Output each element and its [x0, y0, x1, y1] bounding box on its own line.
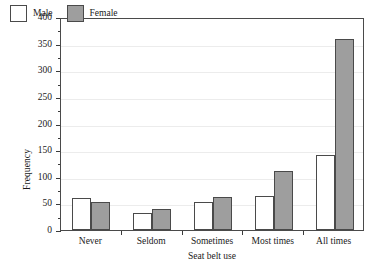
x-axis-title: Seat belt use	[60, 251, 364, 262]
legend-item-male: Male	[10, 5, 53, 22]
bar-male-never	[72, 198, 91, 230]
y-axis-tick-label: 100	[38, 173, 52, 183]
bars-layer	[61, 19, 363, 230]
x-axis-tick-label: Seldom	[137, 236, 166, 247]
plot-area	[60, 18, 364, 231]
x-axis-tick-mark	[182, 231, 183, 235]
legend-item-female: Female	[67, 5, 118, 22]
bar-female-seldom	[152, 209, 171, 230]
x-axis-tick-label: Sometimes	[191, 236, 233, 247]
x-axis-tick-label: Never	[79, 236, 102, 247]
bar-female-never	[91, 202, 110, 230]
legend-label-female: Female	[90, 9, 118, 19]
bar-female-most-times	[274, 171, 293, 230]
x-axis-tick-label: All times	[316, 236, 351, 247]
y-axis-tick-label: 250	[38, 93, 52, 103]
x-axis-tick-label: Most times	[252, 236, 295, 247]
legend-label-male: Male	[33, 9, 53, 19]
x-axis-tick-mark	[121, 231, 122, 235]
y-axis-tick-label: 0	[47, 226, 52, 236]
y-axis-tick-label: 150	[38, 146, 52, 156]
chart-legend: MaleFemale	[8, 4, 120, 23]
bar-female-all-times	[335, 39, 354, 230]
x-axis-tick-labels: NeverSeldomSometimesMost timesAll times	[60, 236, 364, 252]
bar-female-sometimes	[213, 197, 232, 230]
y-axis-tick-label: 200	[38, 120, 52, 130]
bar-male-all-times	[316, 155, 335, 230]
bar-male-seldom	[133, 213, 152, 230]
x-axis-tick-mark	[242, 231, 243, 235]
bar-chart: Frequency 050100150200250300350400 Never…	[0, 0, 378, 279]
y-axis-tick-label: 350	[38, 40, 52, 50]
y-axis-tick-label: 300	[38, 67, 52, 77]
legend-swatch-male	[10, 5, 27, 22]
legend-swatch-female	[67, 5, 84, 22]
y-axis-tick-labels: 050100150200250300350400	[26, 18, 52, 231]
bar-male-sometimes	[194, 202, 213, 230]
bar-male-most-times	[255, 196, 274, 230]
x-axis-tick-mark	[303, 231, 304, 235]
y-axis-tick-label: 50	[43, 200, 53, 210]
